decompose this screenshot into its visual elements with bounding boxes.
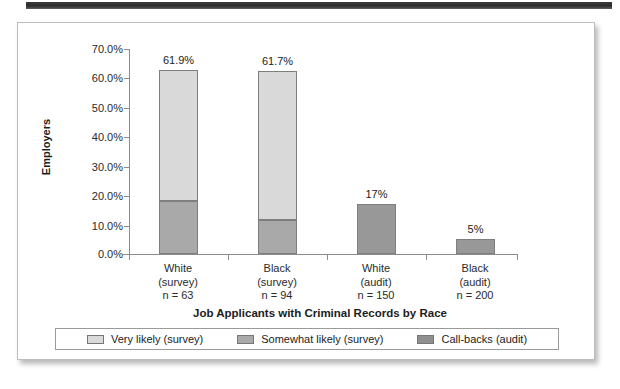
bar-segment-somewhat-likely[interactable]: [258, 220, 297, 254]
legend-item-somewhat-likely[interactable]: Somewhat likely (survey): [237, 333, 383, 345]
y-tick-label: 40.0%: [71, 131, 123, 143]
x-tick-mark: [426, 255, 427, 260]
x-tick-mark: [228, 255, 229, 260]
x-category-line: n = 94: [223, 289, 331, 303]
x-category-white-survey: White (survey) n = 63: [124, 262, 232, 303]
legend-label: Call-backs (audit): [441, 333, 527, 345]
y-tick-label: 30.0%: [71, 161, 123, 173]
x-category-line: (audit): [322, 276, 430, 290]
chart-plot-area: Employers 70.0% 60.0% 50.0% 40.0% 30.0% …: [18, 23, 596, 361]
y-tick-label: 20.0%: [71, 190, 123, 202]
x-category-line: (audit): [421, 276, 529, 290]
bar-white-survey[interactable]: 61.9%: [159, 70, 198, 254]
y-axis-line: [129, 49, 130, 255]
x-category-black-survey: Black (survey) n = 94: [223, 262, 331, 303]
x-tick-mark: [327, 255, 328, 260]
bar-black-audit[interactable]: 5%: [456, 239, 495, 254]
y-axis-title: Employers: [40, 102, 52, 192]
bar-segment-somewhat-likely[interactable]: [159, 201, 198, 254]
legend-swatch-icon: [87, 335, 104, 344]
y-axis-tick-labels: 70.0% 60.0% 50.0% 40.0% 30.0% 20.0% 10.0…: [68, 23, 123, 361]
y-tick-label: 0.0%: [71, 248, 123, 260]
x-category-line: (survey): [124, 276, 232, 290]
x-category-line: n = 200: [421, 289, 529, 303]
figure-container: Employers 70.0% 60.0% 50.0% 40.0% 30.0% …: [17, 22, 595, 360]
x-category-line: n = 63: [124, 289, 232, 303]
bar-segment-very-likely[interactable]: [258, 71, 297, 220]
x-category-line: n = 150: [322, 289, 430, 303]
bar-black-survey[interactable]: 61.7%: [258, 71, 297, 254]
x-category-line: (survey): [223, 276, 331, 290]
y-tick-label: 60.0%: [71, 72, 123, 84]
legend-swatch-icon: [417, 335, 434, 344]
x-tick-mark: [517, 255, 518, 260]
bar-segment-call-backs[interactable]: [456, 239, 495, 254]
x-axis-title: Job Applicants with Criminal Records by …: [122, 307, 518, 319]
bar-value-label: 5%: [416, 223, 536, 235]
bar-value-label: 17%: [317, 188, 437, 200]
y-tick-label: 10.0%: [71, 220, 123, 232]
legend-item-call-backs[interactable]: Call-backs (audit): [417, 333, 527, 345]
legend-label: Somewhat likely (survey): [261, 333, 383, 345]
x-category-line: White: [124, 262, 232, 276]
x-category-line: Black: [421, 262, 529, 276]
x-category-line: White: [322, 262, 430, 276]
bar-white-audit[interactable]: 17%: [357, 204, 396, 254]
x-category-white-audit: White (audit) n = 150: [322, 262, 430, 303]
page-top-rule: [26, 2, 612, 9]
x-category-line: Black: [223, 262, 331, 276]
y-tick-label: 70.0%: [71, 43, 123, 55]
legend-item-very-likely[interactable]: Very likely (survey): [87, 333, 203, 345]
legend-label: Very likely (survey): [111, 333, 203, 345]
chart-legend: Very likely (survey) Somewhat likely (su…: [55, 328, 559, 350]
x-tick-mark: [129, 255, 130, 260]
y-tick-label: 50.0%: [71, 102, 123, 114]
x-category-black-audit: Black (audit) n = 200: [421, 262, 529, 303]
bar-value-label: 61.7%: [218, 55, 338, 67]
legend-swatch-icon: [237, 335, 254, 344]
bar-segment-call-backs[interactable]: [357, 204, 396, 254]
bar-segment-very-likely[interactable]: [159, 70, 198, 201]
x-axis-line: [122, 254, 518, 255]
